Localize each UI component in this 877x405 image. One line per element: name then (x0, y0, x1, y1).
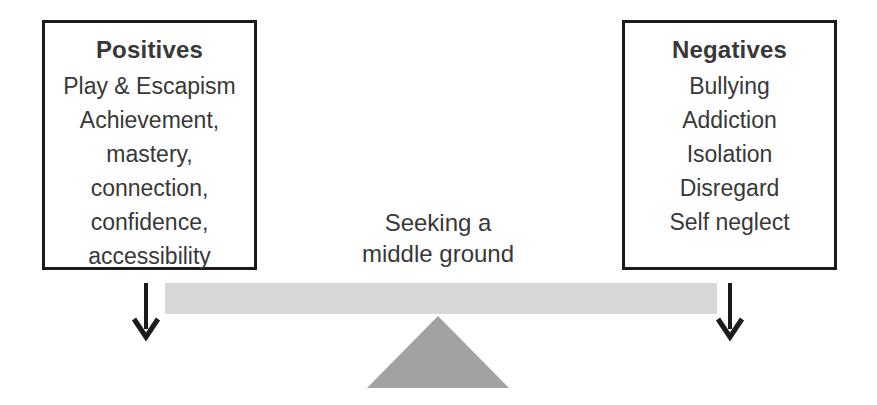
down-arrow-icon (714, 281, 746, 345)
seesaw-beam (165, 283, 717, 314)
center-caption-line1: Seeking a (318, 207, 558, 238)
positives-item: Play & Escapism (45, 69, 254, 103)
negatives-list: Bullying Addiction Isolation Disregard S… (625, 69, 834, 239)
positives-list: Play & Escapism Achievement, mastery, co… (45, 69, 254, 273)
positives-box: Positives Play & Escapism Achievement, m… (42, 20, 257, 270)
negatives-item: Isolation (625, 137, 834, 171)
negatives-title: Negatives (625, 35, 834, 65)
positives-title: Positives (45, 35, 254, 65)
balance-diagram: Positives Play & Escapism Achievement, m… (0, 0, 877, 405)
positives-item: confidence, (45, 205, 254, 239)
positives-item: Achievement, (45, 103, 254, 137)
negatives-item: Disregard (625, 171, 834, 205)
center-caption: Seeking a middle ground (318, 207, 558, 269)
fulcrum-triangle (367, 316, 509, 388)
negatives-item: Bullying (625, 69, 834, 103)
positives-item: connection, (45, 171, 254, 205)
down-arrow-icon (130, 281, 162, 345)
positives-item: accessibility (45, 239, 254, 273)
negatives-box: Negatives Bullying Addiction Isolation D… (622, 20, 837, 270)
negatives-item: Self neglect (625, 205, 834, 239)
negatives-item: Addiction (625, 103, 834, 137)
center-caption-line2: middle ground (318, 238, 558, 269)
positives-item: mastery, (45, 137, 254, 171)
